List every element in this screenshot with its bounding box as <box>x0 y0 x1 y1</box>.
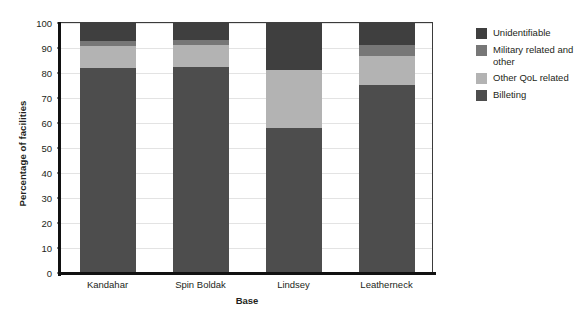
bar-segment-unidentifiable <box>80 22 136 41</box>
y-tick-label: 50 <box>41 143 52 154</box>
bar-segment-unidentifiable <box>359 22 415 45</box>
bar-segment-military-related-and-other <box>359 45 415 56</box>
y-tick-mark <box>57 248 61 249</box>
bar-segment-unidentifiable <box>173 22 229 40</box>
bar-segment-military-related-and-other <box>80 41 136 46</box>
bar-segment-other-qol-related <box>80 46 136 69</box>
legend-swatch <box>476 90 487 101</box>
y-tick-mark <box>57 98 61 99</box>
bar-spin-boldak <box>173 22 229 272</box>
y-tick-label: 40 <box>41 168 52 179</box>
bar-leatherneck <box>359 22 415 272</box>
y-tick-label: 10 <box>41 243 52 254</box>
y-tick-label: 70 <box>41 93 52 104</box>
stacked-bar-chart: Percentage of facilities 010203040506070… <box>0 0 577 319</box>
y-tick-label: 80 <box>41 68 52 79</box>
y-tick-label: 30 <box>41 193 52 204</box>
bar-segment-unidentifiable <box>266 22 322 70</box>
chart-legend: UnidentifiableMilitary related and other… <box>476 27 576 106</box>
legend-item: Billeting <box>476 89 576 101</box>
x-tick-label: Leatherneck <box>332 279 442 290</box>
y-tick-mark <box>57 223 61 224</box>
legend-label: Billeting <box>493 89 526 101</box>
y-tick-mark <box>57 123 61 124</box>
legend-label: Unidentifiable <box>493 27 551 39</box>
x-axis-title: Base <box>61 295 433 306</box>
y-tick-label: 60 <box>41 118 52 129</box>
legend-swatch <box>476 28 487 39</box>
bar-segment-other-qol-related <box>266 70 322 129</box>
bar-segment-other-qol-related <box>359 56 415 85</box>
legend-label: Other QoL related <box>493 72 569 84</box>
bar-segment-billeting <box>359 85 415 273</box>
bar-lindsey <box>266 22 322 272</box>
bar-segment-other-qol-related <box>173 45 229 68</box>
y-tick-mark <box>57 73 61 74</box>
bar-segment-billeting <box>266 128 322 272</box>
bar-segment-billeting <box>173 67 229 272</box>
y-tick-mark <box>57 48 61 49</box>
y-tick-mark <box>57 173 61 174</box>
bar-kandahar <box>80 22 136 272</box>
y-tick-mark <box>57 23 61 24</box>
y-tick-label: 100 <box>36 18 52 29</box>
y-tick-label: 0 <box>47 268 52 279</box>
plot-area: 0102030405060708090100KandaharSpin Bolda… <box>61 22 433 272</box>
legend-label: Military related and other <box>493 44 576 67</box>
y-tick-mark <box>57 198 61 199</box>
y-tick-mark <box>57 148 61 149</box>
legend-item: Military related and other <box>476 44 576 67</box>
legend-item: Other QoL related <box>476 72 576 84</box>
y-axis-title: Percentage of facilities <box>17 44 28 264</box>
legend-swatch <box>476 73 487 84</box>
y-tick-label: 90 <box>41 43 52 54</box>
bar-segment-billeting <box>80 68 136 272</box>
y-tick-label: 20 <box>41 218 52 229</box>
legend-item: Unidentifiable <box>476 27 576 39</box>
legend-swatch <box>476 45 487 56</box>
y-tick-mark <box>57 273 61 274</box>
bar-segment-military-related-and-other <box>173 40 229 45</box>
